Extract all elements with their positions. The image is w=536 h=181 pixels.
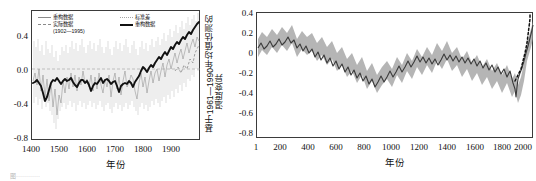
right-xtick-10: 2000 — [511, 143, 535, 152]
legend-swatch-dot-gray — [120, 14, 133, 20]
right-xtick-1: 200 — [268, 143, 292, 152]
left-xtick-2: 1600 — [73, 145, 101, 154]
right-chart-panel: 基于1961—1990年均值估测的 温度变异 0.4 0.2 0 -0.2 -0… — [203, 0, 536, 181]
figure-caption-faint: 图············ — [10, 172, 470, 180]
legend-label-recon-thin: 重构数据 — [53, 14, 73, 20]
right-ytick-0: 0.4 — [227, 9, 253, 18]
legend-swatch-solid-gray — [38, 14, 51, 20]
right-ytick-4: -0.4 — [227, 89, 253, 98]
right-xtick-3: 600 — [324, 143, 348, 152]
right-xtick-2: 400 — [296, 143, 320, 152]
right-xtick-8: 1600 — [463, 143, 487, 152]
right-ytick-3: -0.2 — [227, 69, 253, 78]
legend-label-stddev: 标准差 — [135, 14, 150, 20]
left-xtick-3: 1700 — [101, 145, 129, 154]
legend-item-recon-bold: 重构数据 — [120, 21, 155, 27]
right-plot-area — [256, 12, 533, 138]
legend-column-left: 重构数据 实际数据 (1902—1995) — [38, 14, 85, 34]
left-ytick-3: -0.8 — [2, 134, 28, 143]
right-ytick-2: 0 — [227, 49, 253, 58]
right-yaxis-title: 基于1961—1990年均值估测的 温度变异 — [206, 8, 225, 138]
right-uncertainty-band — [258, 21, 533, 103]
left-ytick-1: 0.0 — [2, 66, 28, 75]
legend-item-stddev: 标准差 — [120, 14, 155, 20]
left-ytick-0: 0.4 — [2, 32, 28, 41]
left-xaxis-title: 年份 — [86, 160, 146, 170]
legend-swatch-thick-black — [120, 21, 133, 27]
right-xtick-4: 800 — [352, 143, 376, 152]
right-xaxis-title: 年份 — [365, 158, 425, 168]
right-xtick-7: 1400 — [435, 143, 459, 152]
legend-swatch-dash-gray — [38, 21, 51, 27]
right-ytick-5: -0.6 — [227, 109, 253, 118]
right-yaxis-title-line2: 温度变异 — [216, 73, 226, 109]
legend-column-right: 标准差 重构数据 — [120, 14, 155, 28]
right-plot-svg — [257, 13, 534, 139]
left-xtick-1: 1500 — [45, 145, 73, 154]
left-ytick-2: -0.4 — [2, 100, 28, 109]
legend-item-actual: 实际数据 — [38, 21, 85, 27]
right-ytick-6: -0.8 — [227, 129, 253, 138]
left-chart-panel: 0.4 0.0 -0.4 -0.8 — [0, 0, 215, 181]
legend-label-actual: 实际数据 — [53, 21, 73, 27]
left-plot-area: 重构数据 实际数据 (1902—1995) 标准差 重构数据 — [31, 10, 200, 140]
legend-item-recon-thin: 重构数据 — [38, 14, 85, 20]
legend-label-recon-bold: 重构数据 — [135, 21, 155, 27]
right-xtick-0: 1 — [244, 143, 268, 152]
left-xtick-0: 1400 — [17, 145, 45, 154]
right-xtick-5: 1000 — [379, 143, 403, 152]
figure-root: 0.4 0.0 -0.4 -0.8 — [0, 0, 536, 181]
right-xtick-6: 1200 — [407, 143, 431, 152]
legend-label-actual-years: (1902—1995) — [38, 28, 85, 34]
left-xtick-4: 1800 — [129, 145, 157, 154]
left-xtick-5: 1900 — [157, 145, 185, 154]
right-ytick-1: 0.2 — [227, 29, 253, 38]
